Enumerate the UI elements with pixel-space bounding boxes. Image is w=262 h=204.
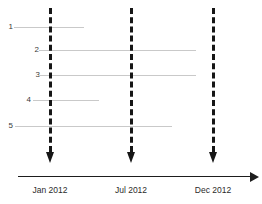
- arrow-right-icon: [250, 172, 259, 182]
- dashed-vertical-line: [130, 8, 133, 152]
- date-marker: [130, 8, 133, 163]
- axis-line: [18, 176, 250, 177]
- axis-tick-label: Jul 2012: [100, 185, 162, 196]
- dashed-vertical-line: [212, 8, 215, 152]
- timeline-figure: 12345 Jan 2012Jul 2012Dec 2012: [0, 0, 262, 204]
- axis-tick-label: Dec 2012: [182, 185, 244, 196]
- task-duration-bar: [39, 50, 196, 51]
- dashed-vertical-line: [49, 8, 52, 152]
- task-label: 1: [5, 20, 13, 34]
- arrow-down-icon: [127, 152, 135, 163]
- arrow-down-icon: [209, 152, 217, 163]
- task-label: 4: [23, 93, 31, 107]
- arrow-down-icon: [46, 152, 54, 163]
- axis-tick-label: Jan 2012: [19, 185, 81, 196]
- task-label: 5: [5, 119, 13, 133]
- date-marker: [49, 8, 52, 163]
- task-label: 2: [31, 43, 39, 57]
- date-marker: [212, 8, 215, 163]
- task-duration-bar: [33, 100, 99, 101]
- task-duration-bar: [15, 126, 172, 127]
- task-duration-bar: [39, 75, 196, 76]
